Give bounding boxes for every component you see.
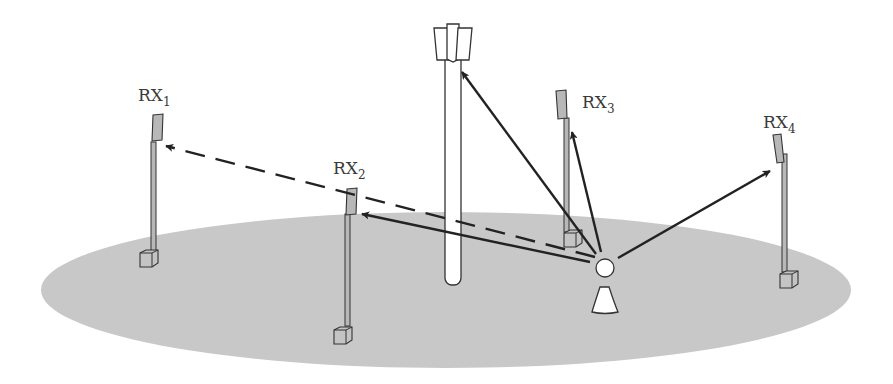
- tower-antenna-right: [456, 28, 472, 60]
- rx1-label: RX1: [138, 85, 171, 109]
- person-head: [596, 259, 614, 277]
- rx1-antenna-panel: [152, 114, 163, 141]
- rx2-label: RX2: [333, 158, 366, 182]
- rx3-antenna-panel: [556, 90, 567, 119]
- rx2-base-box: [334, 327, 352, 344]
- rx4-antenna-panel: [773, 134, 784, 163]
- rx4-base-box: [780, 271, 798, 288]
- rx1-base-box: [140, 250, 158, 267]
- rx4-label: RX4: [763, 112, 796, 136]
- diagram-canvas: RX1 RX2 RX3 RX4: [0, 0, 893, 384]
- rx3-label: RX3: [582, 92, 615, 116]
